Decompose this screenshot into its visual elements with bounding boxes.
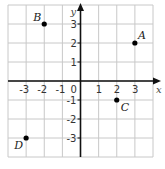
x-tick-label: -2 — [37, 84, 47, 95]
x-tick-label: 2 — [114, 84, 120, 95]
point-marker-icon — [132, 40, 137, 45]
axes: x y 0 — [8, 3, 162, 157]
point-marker-icon — [42, 21, 47, 26]
y-tick-label: 3 — [71, 19, 77, 30]
point-marker-icon — [114, 97, 119, 102]
x-axis-label: x — [156, 84, 162, 95]
point-label: C — [121, 101, 130, 114]
x-tick-label: 1 — [96, 84, 102, 95]
y-axis-arrow-icon — [77, 3, 84, 11]
point-label: B — [32, 11, 41, 24]
point-label: D — [13, 139, 23, 152]
coordinate-plane: x y 0 -3-2-1123321-1-2-3 ABCD — [0, 0, 165, 169]
x-tick-label: 3 — [132, 84, 138, 95]
y-tick-label: -3 — [67, 133, 77, 144]
x-tick-label: -1 — [55, 84, 65, 95]
y-tick-label: -2 — [67, 114, 77, 125]
y-tick-label: 1 — [71, 57, 77, 68]
x-tick-label: -3 — [19, 84, 29, 95]
y-tick-label: -1 — [67, 95, 77, 106]
point-marker-icon — [24, 135, 29, 140]
origin-label: 0 — [71, 84, 77, 95]
y-axis-label: y — [70, 6, 77, 17]
y-tick-label: 2 — [71, 38, 77, 49]
point-label: A — [137, 29, 146, 42]
